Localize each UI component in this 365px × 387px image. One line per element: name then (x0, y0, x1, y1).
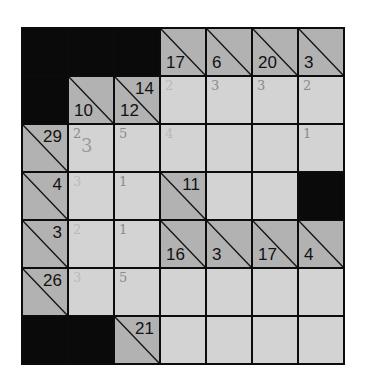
across-sum: 21 (135, 320, 154, 337)
entry-cell-r2c1[interactable]: 2 3 (69, 125, 113, 171)
pencil-mark: 3 (73, 175, 81, 188)
entry-cell-r6c6[interactable] (299, 317, 343, 363)
entry-cell-r3c2[interactable]: 1 (115, 173, 159, 219)
down-sum: 20 (258, 54, 277, 71)
clue-cell-r4c5: 17 (253, 221, 297, 267)
down-sum: 12 (120, 102, 139, 119)
pencil-mark: 3 (73, 271, 81, 284)
clue-cell-r4c6: 4 (299, 221, 343, 267)
clue-cell-r3c3: 11 (161, 173, 205, 219)
clue-cell-r3c0: 4 (23, 173, 67, 219)
clue-cell-r6c2: 21 (115, 317, 159, 363)
across-sum: 3 (53, 224, 62, 241)
pencil-mark: 1 (119, 223, 127, 236)
black-cell (69, 29, 113, 75)
entry-cell-r6c3[interactable] (161, 317, 205, 363)
down-sum: 3 (304, 54, 313, 71)
entry-cell-r4c2[interactable]: 1 (115, 221, 159, 267)
clue-cell-r0c6: 3 (299, 29, 343, 75)
pencil-mark-overwrite: 3 (81, 137, 92, 155)
black-cell (299, 173, 343, 219)
entry-cell-r3c4[interactable] (207, 173, 251, 219)
down-sum: 6 (212, 54, 221, 71)
black-cell (23, 77, 67, 123)
entry-cell-r2c6[interactable]: 1 (299, 125, 343, 171)
entry-cell-r2c5[interactable] (253, 125, 297, 171)
entry-cell-r5c4[interactable] (207, 269, 251, 315)
entry-cell-r2c2[interactable]: 5 (115, 125, 159, 171)
clue-cell-r4c3: 16 (161, 221, 205, 267)
down-sum: 4 (304, 246, 313, 263)
clue-cell-r4c0: 3 (23, 221, 67, 267)
pencil-mark: 3 (257, 79, 265, 92)
across-sum: 29 (43, 128, 62, 145)
clue-cell-r0c3: 17 (161, 29, 205, 75)
entry-cell-r5c6[interactable] (299, 269, 343, 315)
pencil-mark: 2 (73, 223, 81, 236)
down-sum: 10 (74, 102, 93, 119)
across-sum: 14 (135, 80, 154, 97)
black-cell (115, 29, 159, 75)
entry-cell-r3c5[interactable] (253, 173, 297, 219)
entry-cell-r5c5[interactable] (253, 269, 297, 315)
black-cell (69, 317, 113, 363)
across-sum: 11 (182, 176, 200, 193)
clue-cell-r5c0: 26 (23, 269, 67, 315)
pencil-mark: 1 (119, 175, 127, 188)
clue-cell-r1c2: 14 12 (115, 77, 159, 123)
pencil-mark: 2 (165, 79, 173, 92)
entry-cell-r1c5[interactable]: 3 (253, 77, 297, 123)
black-cell (23, 317, 67, 363)
pencil-mark: 2 (303, 79, 311, 92)
down-sum: 16 (166, 246, 185, 263)
entry-cell-r4c1[interactable]: 2 (69, 221, 113, 267)
entry-cell-r5c3[interactable] (161, 269, 205, 315)
across-sum: 26 (43, 272, 62, 289)
pencil-mark: 1 (303, 127, 311, 140)
clue-cell-r2c0: 29 (23, 125, 67, 171)
across-sum: 4 (53, 176, 62, 193)
down-sum: 17 (166, 54, 185, 71)
entry-cell-r6c5[interactable] (253, 317, 297, 363)
entry-cell-r5c1[interactable]: 3 (69, 269, 113, 315)
clue-cell-r1c1: 10 (69, 77, 113, 123)
pencil-mark: 5 (119, 127, 127, 140)
entry-cell-r2c4[interactable] (207, 125, 251, 171)
clue-cell-r0c4: 6 (207, 29, 251, 75)
pencil-mark: 3 (211, 79, 219, 92)
entry-cell-r1c4[interactable]: 3 (207, 77, 251, 123)
entry-cell-r6c4[interactable] (207, 317, 251, 363)
entry-cell-r3c1[interactable]: 3 (69, 173, 113, 219)
down-sum: 3 (212, 246, 221, 263)
entry-cell-r1c6[interactable]: 2 (299, 77, 343, 123)
clue-cell-r0c5: 20 (253, 29, 297, 75)
entry-cell-r5c2[interactable]: 5 (115, 269, 159, 315)
pencil-mark: 4 (165, 127, 173, 140)
down-sum: 17 (258, 246, 277, 263)
entry-cell-r1c3[interactable]: 2 (161, 77, 205, 123)
entry-cell-r2c3[interactable]: 4 (161, 125, 205, 171)
pencil-mark: 5 (119, 271, 127, 284)
kakuro-board: 17 6 20 3 10 14 12 2 3 3 2 29 2 3 (21, 27, 345, 365)
clue-cell-r4c4: 3 (207, 221, 251, 267)
black-cell (23, 29, 67, 75)
